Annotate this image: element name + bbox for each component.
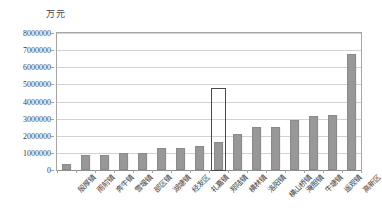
y-axis-tick-mark — [51, 153, 54, 154]
bar[interactable] — [233, 134, 243, 170]
bar-slot[interactable] — [171, 33, 190, 170]
y-axis-tick-label: 6000000 — [23, 63, 51, 72]
bar[interactable] — [252, 127, 262, 170]
x-axis-tick-mark — [266, 170, 267, 173]
x-axis-tick-mark — [285, 170, 286, 173]
bar-slot[interactable] — [76, 33, 95, 170]
bar-slot[interactable] — [228, 33, 247, 170]
x-axis-tick-mark — [114, 170, 115, 173]
bar-slot[interactable] — [57, 33, 76, 170]
x-axis-tick-label: 经发区 — [191, 174, 212, 195]
bar-slot[interactable] — [114, 33, 133, 170]
y-axis-tick-label: 4000000 — [23, 97, 51, 106]
y-axis-tick-mark — [51, 170, 54, 171]
y-axis-tick-label: 8000000 — [23, 29, 51, 38]
y-axis-tick-labels: 8000000700000060000005000000400000030000… — [0, 32, 54, 171]
bar[interactable] — [81, 155, 91, 170]
x-axis-tick-mark — [209, 170, 210, 173]
y-axis-tick-mark — [51, 67, 54, 68]
x-axis-tick-mark — [95, 170, 96, 173]
bar[interactable] — [271, 127, 281, 170]
x-axis-tick-mark — [247, 170, 248, 173]
x-axis-tick-label: 殷厚镇 — [77, 174, 98, 195]
bar[interactable] — [328, 115, 338, 170]
y-axis-tick-label: 2000000 — [23, 131, 51, 140]
x-axis-tick-mark — [171, 170, 172, 173]
x-axis-tick-label: 雨前镇 — [96, 174, 117, 195]
x-axis-tick-label: 遥观镇 — [343, 174, 364, 195]
bar-slot[interactable] — [323, 33, 342, 170]
x-axis-tick-label: 高新区 — [362, 174, 382, 195]
bar[interactable] — [176, 148, 186, 170]
y-axis-tick-label: 5000000 — [23, 80, 51, 89]
bar[interactable] — [138, 153, 148, 170]
bar[interactable] — [309, 116, 319, 170]
x-axis-tick-mark — [304, 170, 305, 173]
x-axis-tick-label: 横林镇 — [248, 174, 269, 195]
x-axis-tick-label: 礼嘉镇 — [210, 174, 231, 195]
bar-slot[interactable] — [247, 33, 266, 170]
y-axis-unit-label: 万元 — [46, 9, 65, 20]
x-axis-tick-label: 郑陆镇 — [229, 174, 250, 195]
x-axis-tick-mark — [76, 170, 77, 173]
y-axis-tick-label: 3000000 — [23, 114, 51, 123]
y-axis-tick-mark — [51, 102, 54, 103]
bar-slot[interactable] — [152, 33, 171, 170]
bar-slot[interactable] — [285, 33, 304, 170]
bar[interactable] — [100, 155, 110, 170]
bar[interactable] — [347, 54, 357, 170]
x-axis-tick-labels: 殷厚镇雨前镇奔牛镇雪堰镇部区镇湖塘镇经发区礼嘉镇郑陆镇横林镇洛阳镇横山桥镇淹胆镇… — [57, 174, 361, 220]
x-axis-tick-label: 洛阳镇 — [267, 174, 288, 195]
y-axis-tick-label: 7000000 — [23, 46, 51, 55]
y-axis-tick-label: 1000000 — [23, 148, 51, 157]
y-axis-tick-mark — [51, 84, 54, 85]
bar[interactable] — [157, 148, 167, 170]
bar-slot[interactable] — [209, 33, 228, 170]
x-axis-tick-label: 牛塘镇 — [324, 174, 345, 195]
bar-slot[interactable] — [95, 33, 114, 170]
x-axis-tick-mark — [133, 170, 134, 173]
x-axis-tick-mark — [323, 170, 324, 173]
x-axis-tick-mark — [152, 170, 153, 173]
y-axis-tick-mark — [51, 119, 54, 120]
bar-slot[interactable] — [342, 33, 361, 170]
bar-slot[interactable] — [304, 33, 323, 170]
bar[interactable] — [290, 120, 300, 170]
x-axis-tick-mark — [57, 170, 58, 173]
x-axis-tick-label: 雪堰镇 — [134, 174, 155, 195]
x-axis-tick-label: 部区镇 — [153, 174, 174, 195]
x-axis-tick-mark — [190, 170, 191, 173]
bar[interactable] — [214, 142, 224, 170]
bar-slot[interactable] — [133, 33, 152, 170]
y-axis-tick-mark — [51, 50, 54, 51]
bar-slot[interactable] — [190, 33, 209, 170]
bars-container — [57, 33, 361, 170]
bar-slot[interactable] — [266, 33, 285, 170]
y-axis-tick-mark — [51, 33, 54, 34]
bar[interactable] — [195, 146, 205, 170]
x-axis-tick-mark — [228, 170, 229, 173]
x-axis-tick-mark — [342, 170, 343, 173]
x-axis-tick-label: 湖塘镇 — [172, 174, 193, 195]
y-axis-tick-mark — [51, 136, 54, 137]
x-axis-tick-label: 奔牛镇 — [115, 174, 136, 195]
x-axis-tick-mark — [361, 170, 362, 173]
bar[interactable] — [119, 153, 129, 170]
